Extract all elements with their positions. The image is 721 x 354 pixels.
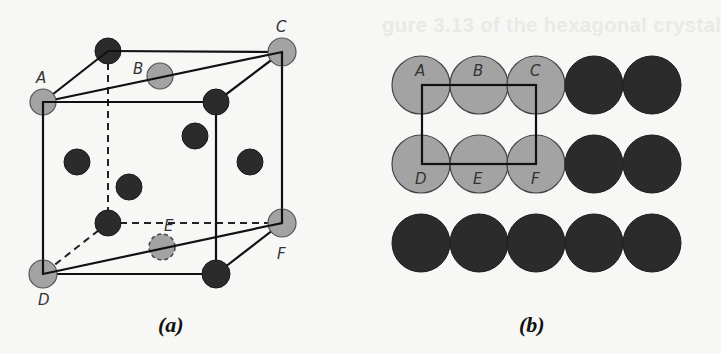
atom-dark bbox=[565, 56, 623, 114]
label-d: D bbox=[38, 291, 50, 309]
atom-dark bbox=[623, 56, 681, 114]
atom-dark bbox=[565, 214, 623, 272]
atom-dark bbox=[392, 214, 450, 272]
label-b-e: E bbox=[473, 170, 483, 188]
atom-dark bbox=[623, 135, 681, 193]
row-3 bbox=[392, 214, 681, 272]
atom-dark bbox=[507, 214, 565, 272]
label-b-a: A bbox=[414, 62, 425, 80]
atom-dark bbox=[450, 214, 508, 272]
atom-back-bottom-left bbox=[95, 210, 121, 236]
caption-a: (a) bbox=[158, 312, 184, 337]
figure-a-unit-cell: A B C D E F (a) bbox=[29, 18, 296, 337]
label-a: A bbox=[35, 69, 46, 87]
caption-b: (b) bbox=[519, 312, 545, 337]
label-b-f: F bbox=[531, 170, 540, 188]
label-b: B bbox=[133, 60, 143, 78]
atom-front-bottom-right bbox=[202, 260, 230, 288]
label-b-b: B bbox=[473, 62, 483, 80]
atom-dark bbox=[623, 214, 681, 272]
atom-dark bbox=[565, 135, 623, 193]
label-b-d: D bbox=[415, 170, 427, 188]
atom-front-top-right bbox=[203, 89, 229, 115]
label-f: F bbox=[277, 245, 286, 263]
interior-atoms bbox=[64, 123, 263, 200]
label-c: C bbox=[276, 18, 287, 36]
label-b-c: C bbox=[530, 62, 541, 80]
figure-b-close-packed-layers: A B C D E F (b) bbox=[392, 56, 681, 337]
label-e: E bbox=[164, 217, 174, 235]
